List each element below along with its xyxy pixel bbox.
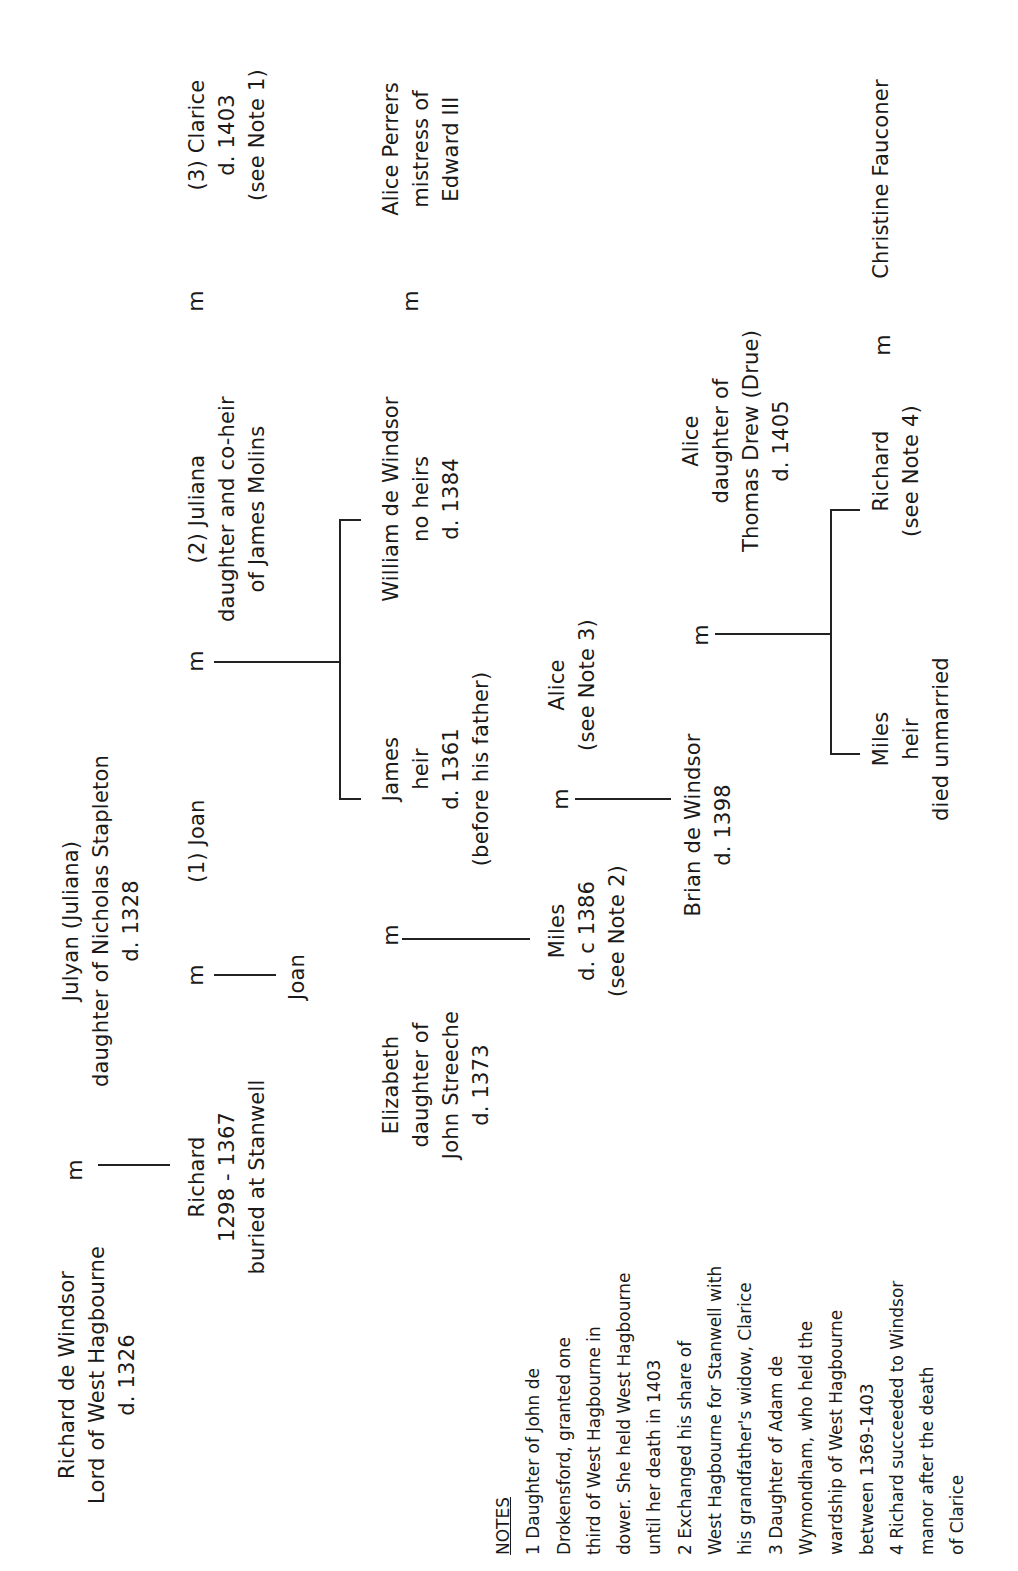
sibling-bar [830, 509, 832, 755]
person-julyan: Julyan (Juliana) daughter of Nicholas St… [56, 755, 146, 1087]
person-detail: (see Note 3) [572, 619, 602, 751]
note-line: of Clarice [942, 1266, 972, 1555]
person-alice-perrers: Alice Perrers mistress of Edward III [376, 82, 466, 216]
person-clarice-wife3: (3) Clarice d. 1403 (see Note 1) [182, 69, 272, 201]
person-elizabeth: Elizabeth daughter of John Streeche d. 1… [376, 1011, 496, 1159]
descent-line [402, 938, 530, 940]
sibling-tick [339, 519, 361, 521]
person-detail: d. 1384 [436, 396, 466, 601]
family-tree-diagram: Richard de Windsor Lord of West Hagbourn… [0, 0, 1018, 1571]
person-juliana-wife2: (2) Juliana daughter and co-heir of Jame… [182, 396, 272, 622]
sibling-bar [339, 519, 341, 800]
person-detail: (see Note 4) [896, 405, 926, 537]
marriage-symbol: m [550, 788, 572, 809]
person-detail: 1298 - 1367 [212, 1080, 242, 1275]
person-detail: d. 1326 [112, 1246, 142, 1504]
person-detail: no heirs [406, 396, 436, 601]
person-detail: d. 1328 [116, 755, 146, 1087]
person-name: Julyan (Juliana) [56, 755, 86, 1087]
person-detail: (see Note 1) [242, 69, 272, 201]
person-detail: d. 1373 [466, 1011, 496, 1159]
person-detail: d. 1405 [766, 330, 796, 552]
person-detail: daughter and co-heir [212, 396, 242, 622]
descent-line [214, 661, 340, 663]
person-detail: mistress of [406, 82, 436, 216]
note-line: between 1369-1403 [852, 1266, 882, 1555]
person-miles-1386: Miles d. c 1386 (see Note 2) [542, 865, 632, 997]
person-william-de-windsor: William de Windsor no heirs d. 1384 [376, 396, 466, 601]
note-line: wardship of West Hagbourne [821, 1266, 851, 1555]
sibling-tick [830, 509, 860, 511]
person-detail: d. 1398 [708, 733, 738, 916]
person-name: Richard [182, 1080, 212, 1275]
marriage-symbol: m [400, 290, 422, 311]
marriage-symbol: m [872, 334, 894, 355]
person-christine-fauconer: Christine Fauconer [866, 79, 896, 279]
note-line: until her death in 1403 [639, 1266, 669, 1555]
person-detail: daughter of [706, 330, 736, 552]
sibling-tick [339, 798, 361, 800]
person-name: Alice Perrers [376, 82, 406, 216]
person-detail: of James Molins [242, 396, 272, 622]
person-name: Miles [866, 657, 896, 821]
person-name: Alice [542, 619, 572, 751]
person-detail: died unmarried [926, 657, 956, 821]
person-joan-child: Joan [282, 954, 312, 1000]
person-detail: John Streeche [436, 1011, 466, 1159]
person-detail: Lord of West Hagbourne [82, 1246, 112, 1504]
person-name: (1) Joan [182, 799, 212, 882]
person-detail: buried at Stanwell [242, 1080, 272, 1275]
descent-line [214, 974, 276, 976]
person-name: (2) Juliana [182, 396, 212, 622]
person-name: Christine Fauconer [866, 79, 896, 279]
note-line: 3 Daughter of Adam de [761, 1266, 791, 1555]
notes-title: NOTES [488, 1266, 518, 1555]
note-line: West Hagbourne for Stanwell with [700, 1266, 730, 1555]
note-line: Wymondham, who held the [791, 1266, 821, 1555]
marriage-symbol: m [690, 624, 712, 645]
person-name: Joan [282, 954, 312, 1000]
person-name: (3) Clarice [182, 69, 212, 201]
marriage-symbol: m [185, 650, 207, 671]
person-name: Miles [542, 865, 572, 997]
person-detail: d. 1403 [212, 69, 242, 201]
note-line: 2 Exchanged his share of [670, 1266, 700, 1555]
marriage-symbol: m [185, 290, 207, 311]
note-line: manor after the death [912, 1266, 942, 1555]
person-detail: Thomas Drew (Drue) [736, 330, 766, 552]
person-name: James [376, 672, 406, 867]
person-joan-wife1: (1) Joan [182, 799, 212, 882]
person-detail: heir [896, 657, 926, 821]
person-detail: (see Note 2) [602, 865, 632, 997]
descent-line [575, 798, 671, 800]
sibling-tick [830, 753, 860, 755]
person-detail: daughter of [406, 1011, 436, 1159]
person-detail: (before his father) [466, 672, 496, 867]
person-richard-de-windsor-sr: Richard de Windsor Lord of West Hagbourn… [52, 1246, 142, 1504]
descent-line [715, 633, 831, 635]
person-detail: d. 1361 [436, 672, 466, 867]
marriage-symbol: m [380, 924, 402, 945]
note-line: 4 Richard succeeded to Windsor [882, 1266, 912, 1555]
note-line: dower. She held West Hagbourne [609, 1266, 639, 1555]
notes-section: NOTES 1 Daughter of John de Drokensford,… [488, 1266, 973, 1555]
person-name: Brian de Windsor [678, 733, 708, 916]
person-richard-note4: Richard (see Note 4) [866, 405, 926, 537]
person-detail: heir [406, 672, 436, 867]
marriage-symbol: m [185, 964, 207, 985]
person-name: Alice [676, 330, 706, 552]
person-miles-heir: Miles heir died unmarried [866, 657, 956, 821]
descent-line [98, 1164, 170, 1166]
person-name: Richard [866, 405, 896, 537]
person-alice-note3: Alice (see Note 3) [542, 619, 602, 751]
note-line: third of West Hagbourne in [579, 1266, 609, 1555]
person-richard-1298: Richard 1298 - 1367 buried at Stanwell [182, 1080, 272, 1275]
note-line: Drokensford, granted one [549, 1266, 579, 1555]
person-detail: daughter of Nicholas Stapleton [86, 755, 116, 1087]
person-name: Richard de Windsor [52, 1246, 82, 1504]
person-detail: d. c 1386 [572, 865, 602, 997]
person-brian-de-windsor: Brian de Windsor d. 1398 [678, 733, 738, 916]
note-line: 1 Daughter of John de [518, 1266, 548, 1555]
person-name: William de Windsor [376, 396, 406, 601]
note-line: his grandfather's widow, Clarice [730, 1266, 760, 1555]
